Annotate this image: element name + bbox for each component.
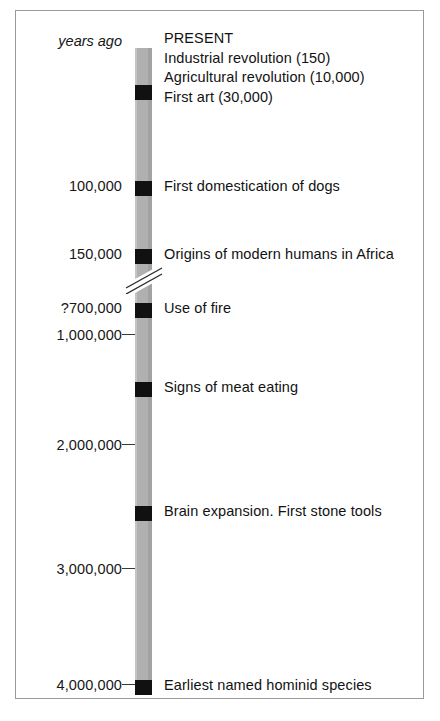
axis-label-4000000: 4,000,000 (0, 677, 130, 693)
axis-label-3000000: 3,000,000 (0, 561, 130, 577)
figure-frame (15, 10, 424, 699)
event-marker-meat-eating (135, 382, 152, 397)
header-line-agricultural: Agricultural revolution (10,000) (164, 68, 365, 88)
event-label-brain-expansion: Brain expansion. First stone tools (164, 503, 382, 519)
event-marker-modern-humans (135, 249, 152, 264)
header-line-present: PRESENT (164, 29, 365, 49)
event-marker-earliest-hominid (135, 680, 152, 695)
timeline-bar (135, 48, 152, 695)
axis-label-700000: ?700,000 (0, 300, 130, 316)
header-line-industrial: Industrial revolution (150) (164, 49, 365, 69)
event-marker-brain-expansion (135, 506, 152, 521)
event-marker-first-art (135, 85, 152, 100)
event-label-earliest-hominid: Earliest named hominid species (164, 677, 372, 693)
header-event-stack: PRESENT Industrial revolution (150) Agri… (164, 29, 365, 107)
axis-label-150000: 150,000 (0, 246, 130, 262)
timeline-figure: years ago 100,000 150,000 ?700,000 1,000… (0, 0, 440, 721)
event-label-dogs: First domestication of dogs (164, 178, 340, 194)
axis-break-icon (122, 264, 166, 294)
event-label-modern-humans: Origins of modern humans in Africa (164, 246, 394, 262)
event-label-meat-eating: Signs of meat eating (164, 379, 298, 395)
header-line-first-art: First art (30,000) (164, 88, 365, 108)
event-label-fire: Use of fire (164, 300, 231, 316)
axis-caption: years ago (0, 33, 130, 49)
axis-label-2000000: 2,000,000 (0, 437, 130, 453)
axis-label-100000: 100,000 (0, 178, 130, 194)
event-marker-dogs (135, 181, 152, 196)
axis-label-1000000: 1,000,000 (0, 327, 130, 343)
event-marker-fire (135, 303, 152, 318)
